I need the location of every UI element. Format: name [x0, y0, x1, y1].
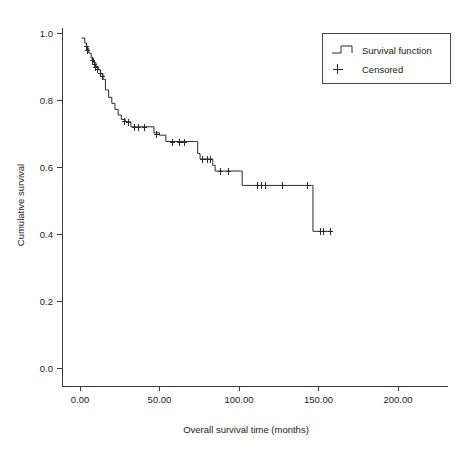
x-axis-title: Overall survival time (months) [183, 424, 309, 435]
censored-plus-marker [177, 139, 181, 146]
censored-plus-marker [84, 43, 88, 50]
censored-plus-marker [305, 182, 309, 189]
y-axis: 0.00.20.40.60.81.0 [40, 28, 62, 387]
y-tick-label: 0.8 [40, 95, 53, 106]
censored-plus-marker [321, 228, 325, 235]
censored-plus-marker [200, 156, 204, 163]
censored-plus-marker [126, 119, 130, 126]
censored-plus-marker [208, 156, 212, 163]
survival-function-curve [82, 38, 332, 231]
censored-plus-marker [259, 182, 263, 189]
y-axis-ticks: 0.00.20.40.60.81.0 [40, 28, 62, 374]
legend-box [322, 33, 450, 83]
x-tick-label: 50.00 [148, 394, 172, 405]
censored-plus-marker [170, 139, 174, 146]
x-tick-label: 0.00 [71, 394, 90, 405]
y-tick-label: 0.0 [40, 363, 53, 374]
legend-label-censored: Censored [362, 64, 403, 75]
y-tick-label: 1.0 [40, 28, 53, 39]
censored-plus-marker [328, 228, 332, 235]
censored-plus-marker [255, 182, 259, 189]
x-axis-ticks: 0.0050.00100.00150.00200.00 [71, 386, 413, 405]
x-tick-label: 100.00 [224, 394, 253, 405]
y-tick-label: 0.4 [40, 229, 53, 240]
y-axis-title: Cumulative survival [15, 164, 26, 246]
censored-plus-marker [154, 131, 158, 138]
y-tick-label: 0.6 [40, 162, 53, 173]
x-tick-label: 150.00 [304, 394, 333, 405]
x-tick-label: 200.00 [383, 394, 412, 405]
survival-plot-figure: 0.00.20.40.60.81.0 0.0050.00100.00150.00… [0, 0, 464, 449]
censored-plus-marker [136, 124, 140, 131]
censored-plus-marker [263, 182, 267, 189]
censored-plus-marker [142, 124, 146, 131]
censored-plus-marker [132, 124, 136, 131]
censored-plus-marker [226, 168, 230, 175]
censored-plus-marker [182, 139, 186, 146]
chart-legend: Survival function Censored [322, 33, 450, 83]
censored-marks [84, 43, 332, 235]
censored-plus-marker [218, 168, 222, 175]
legend-label-survival-function: Survival function [362, 45, 432, 56]
y-tick-label: 0.2 [40, 296, 53, 307]
censored-plus-marker [280, 182, 284, 189]
x-axis: 0.0050.00100.00150.00200.00 [62, 386, 448, 405]
kaplan-meier-chart: 0.00.20.40.60.81.0 0.0050.00100.00150.00… [0, 0, 464, 449]
